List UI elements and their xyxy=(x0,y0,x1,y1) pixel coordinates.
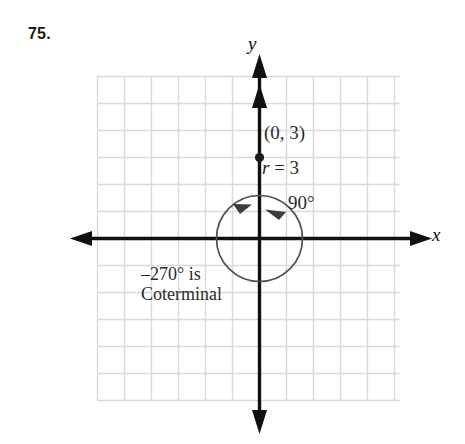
coterminal-note: –270° isCoterminal xyxy=(141,264,222,304)
y-axis xyxy=(252,54,267,434)
angle-measure-label: 90° xyxy=(288,192,315,213)
coordinate-plane-svg xyxy=(0,0,465,444)
coterminal-note-line1: –270° is xyxy=(141,264,201,284)
x-axis-label: x xyxy=(432,224,440,245)
radius-value: = 3 xyxy=(269,157,299,178)
y-axis-label: y xyxy=(248,33,256,54)
figure-container: 75. xyxy=(0,0,465,444)
point-coordinate-label: (0, 3) xyxy=(264,122,305,143)
radius-label: r = 3 xyxy=(262,157,299,178)
coterminal-note-line2: Coterminal xyxy=(141,284,222,304)
